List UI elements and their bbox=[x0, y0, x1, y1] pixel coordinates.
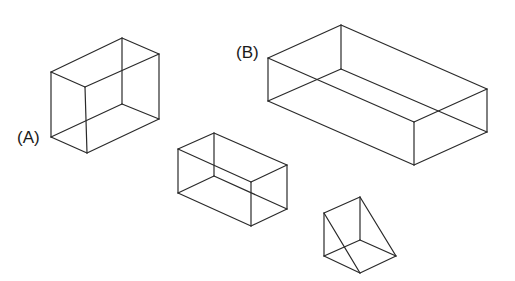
edge-line bbox=[122, 104, 159, 119]
edge-line bbox=[268, 25, 341, 58]
box-c bbox=[178, 133, 287, 226]
edge-line bbox=[341, 25, 487, 89]
box-b bbox=[268, 25, 487, 165]
edge-line bbox=[360, 197, 396, 256]
label-b: (B) bbox=[236, 43, 259, 62]
edge-line bbox=[87, 119, 159, 153]
edge-line bbox=[414, 132, 487, 165]
solids-diagram: (A) (B) bbox=[0, 0, 515, 281]
edge-line bbox=[268, 101, 414, 165]
edge-line bbox=[51, 38, 122, 72]
wedge-prism bbox=[324, 197, 396, 273]
edge-line bbox=[251, 209, 287, 226]
edge-line bbox=[360, 256, 396, 273]
edge-line bbox=[122, 38, 159, 54]
edge-line bbox=[251, 165, 287, 182]
edge-line bbox=[324, 197, 360, 213]
box-a bbox=[51, 38, 159, 153]
edge-line bbox=[178, 133, 214, 149]
label-a: (A) bbox=[17, 128, 40, 147]
edge-line bbox=[178, 176, 214, 193]
edge-line bbox=[51, 72, 85, 87]
edge-line bbox=[214, 133, 287, 165]
edge-line bbox=[178, 193, 251, 226]
edge-line bbox=[51, 137, 87, 153]
